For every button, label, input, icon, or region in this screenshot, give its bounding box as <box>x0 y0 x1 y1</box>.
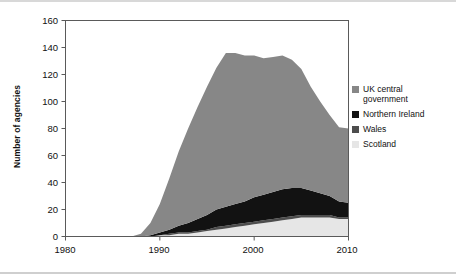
legend-swatch-icon <box>352 126 359 133</box>
chart-figure: Number of agencies 160 140 120 100 80 60… <box>0 0 456 274</box>
chart-legend: UK central governmentNorthern IrelandWal… <box>352 84 456 154</box>
legend-item-scotland[interactable]: Scotland <box>352 139 456 149</box>
legend-item-label: Scotland <box>363 139 396 149</box>
legend-item-label: Wales <box>363 124 386 134</box>
legend-item-label: UK central government <box>363 84 408 104</box>
stacked-areas <box>66 53 349 237</box>
legend-item-northern-ireland[interactable]: Northern Ireland <box>352 109 456 119</box>
legend-item-label: Northern Ireland <box>363 109 424 119</box>
legend-swatch-icon <box>352 86 359 93</box>
legend-item-uk-central-government[interactable]: UK central government <box>352 84 456 104</box>
legend-item-wales[interactable]: Wales <box>352 124 456 134</box>
legend-swatch-icon <box>352 141 359 148</box>
legend-swatch-icon <box>352 111 359 118</box>
